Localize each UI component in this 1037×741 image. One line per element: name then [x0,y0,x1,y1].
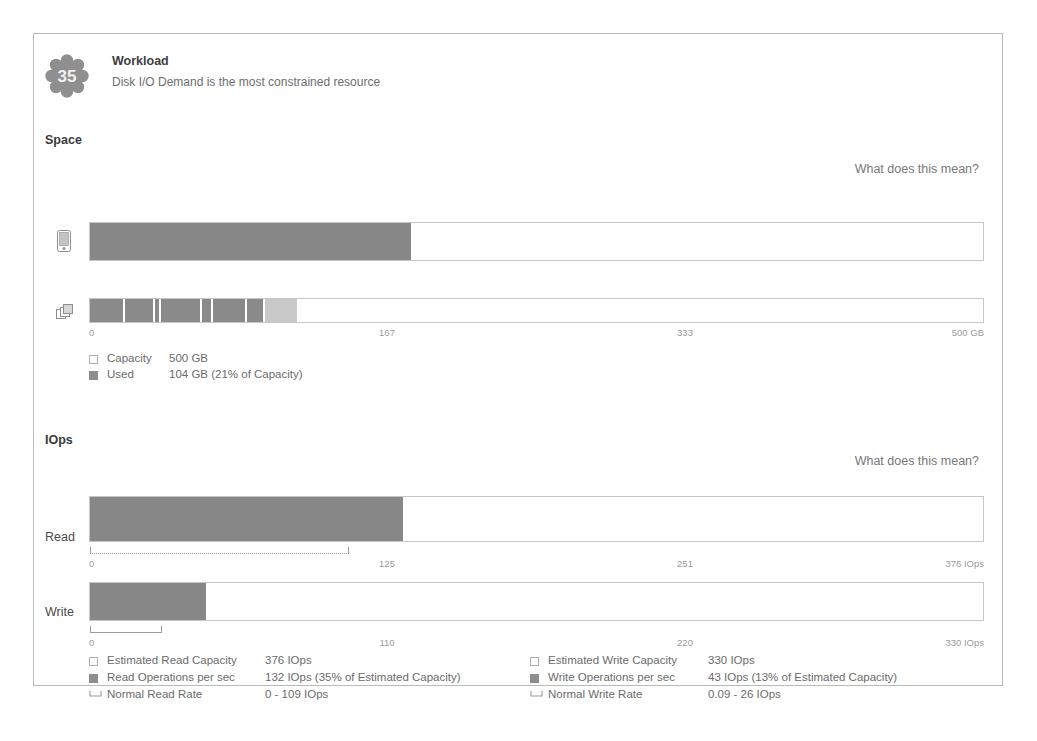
space-aggregate-bar [89,298,984,323]
legend-swatch-hollow [89,657,98,666]
write-axis-tick: 330 IOps [945,637,984,648]
iops-write-axis: 0 110 220 330 IOps [89,637,984,651]
legend-value: 0.09 - 26 IOps [708,688,781,700]
iops-what-does-this-mean-link[interactable]: What does this mean? [634,454,979,468]
write-row-label: Write [45,605,74,619]
legend-value: 0 - 109 IOps [265,688,328,700]
write-axis-tick: 0 [89,637,94,648]
space-segment [247,299,263,322]
bracket-icon [530,689,543,699]
space-axis-tick: 167 [379,327,395,338]
workload-panel: 35 Workload Disk I/O Demand is the most … [33,33,1003,686]
legend-item-normal-read-rate: Normal Read Rate 0 - 109 IOps [89,688,539,705]
disk-icon [57,230,71,256]
space-section-title: Space [45,133,82,147]
space-axis-tick: 500 GB [952,327,984,338]
read-axis-tick: 125 [379,558,395,569]
page-title: Workload [112,54,169,68]
score-value: 35 [45,54,89,98]
legend-label: Estimated Write Capacity [548,654,677,666]
legend-label: Normal Write Rate [548,688,642,700]
legend-swatch-solid [89,674,98,683]
iops-write-used-fill [90,583,206,620]
legend-label: Normal Read Rate [107,688,202,700]
legend-swatch-hollow [89,355,98,364]
space-axis-tick: 0 [89,327,94,338]
space-segment [213,299,245,322]
legend-value: 132 IOps (35% of Estimated Capacity) [265,671,461,683]
legend-item-capacity: Capacity 500 GB [89,352,509,369]
legend-label: Estimated Read Capacity [107,654,237,666]
legend-item-read-operations: Read Operations per sec 132 IOps (35% of… [89,671,539,688]
iops-write-bar [89,582,984,621]
legend-value: 43 IOps (13% of Estimated Capacity) [708,671,897,683]
legend-value: 104 GB (21% of Capacity) [169,368,303,380]
space-what-does-this-mean-link[interactable]: What does this mean? [634,162,979,176]
space-segment [202,299,211,322]
iops-read-used-fill [90,497,403,541]
legend-swatch-solid [89,371,98,380]
legend-swatch-solid [530,674,539,683]
disk-stack-icon [56,304,74,326]
legend-value: 376 IOps [265,654,312,666]
space-segment [155,299,159,322]
score-badge: 35 [45,54,89,98]
bracket-icon [89,689,102,699]
space-segment [90,299,123,322]
workload-report-page: 35 Workload Disk I/O Demand is the most … [0,0,1037,741]
read-row-label: Read [45,530,75,544]
write-axis-tick: 110 [379,637,394,648]
iops-read-axis: 0 125 251 376 IOps [89,558,984,572]
legend-value: 330 IOps [708,654,755,666]
space-axis: 0 167 333 500 GB [89,327,984,341]
space-datastore-used-fill [90,223,411,260]
iops-section-title: IOps [45,433,73,447]
legend-label: Read Operations per sec [107,671,235,683]
legend-value: 500 GB [169,352,208,364]
read-axis-tick: 0 [89,558,94,569]
legend-label: Capacity [107,352,152,364]
legend-item-estimated-write-capacity: Estimated Write Capacity 330 IOps [530,654,980,671]
legend-item-used: Used 104 GB (21% of Capacity) [89,368,509,385]
iops-read-bar [89,496,984,542]
legend-item-write-operations: Write Operations per sec 43 IOps (13% of… [530,671,980,688]
read-axis-tick: 251 [677,558,693,569]
legend-item-normal-write-rate: Normal Write Rate 0.09 - 26 IOps [530,688,980,705]
legend-label: Used [107,368,134,380]
write-normal-range-bracket [90,626,162,633]
legend-swatch-hollow [530,657,539,666]
legend-label: Write Operations per sec [548,671,675,683]
space-segment [125,299,153,322]
space-axis-tick: 333 [677,327,693,338]
panel-header: 35 Workload Disk I/O Demand is the most … [45,46,945,104]
page-subtitle: Disk I/O Demand is the most constrained … [112,75,380,89]
space-datastore-bar [89,222,984,261]
read-normal-range-bracket [90,547,349,554]
legend-item-estimated-read-capacity: Estimated Read Capacity 376 IOps [89,654,539,671]
space-segment-free [265,299,297,322]
write-axis-tick: 220 [677,637,693,648]
read-axis-tick: 376 IOps [945,558,984,569]
space-segment [161,299,200,322]
